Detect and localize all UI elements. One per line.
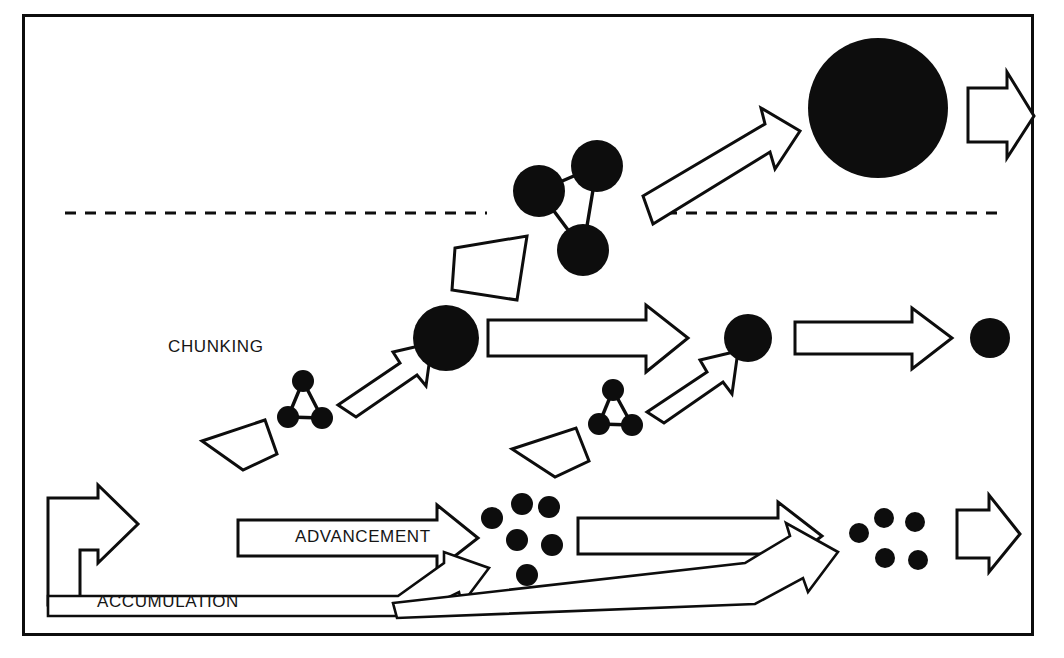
middle-circle-1 (413, 305, 479, 371)
cluster-node (602, 379, 624, 401)
cluster-node (557, 224, 609, 276)
advancement-arrow-mid-1 (488, 305, 688, 372)
dot (511, 493, 533, 515)
mega-circle (808, 38, 948, 178)
middle-circle-2 (724, 314, 772, 362)
chunking-arrow-top (643, 108, 800, 224)
cluster-node (571, 140, 623, 192)
cluster-node (513, 165, 565, 217)
cluster-node (621, 414, 643, 436)
dot (481, 507, 503, 529)
dot (874, 508, 894, 528)
dot (538, 496, 560, 518)
advancement-arrow-mid-2 (795, 308, 952, 369)
triangle-cluster-small-2 (588, 379, 643, 436)
chunking-arrow-mid-2-tail (512, 428, 589, 477)
advancement-label: ADVANCEMENT (295, 527, 431, 546)
triangle-cluster-large (513, 140, 623, 276)
cluster-node (277, 406, 299, 428)
cluster-node (588, 413, 610, 435)
output-arrow-bottom (957, 495, 1020, 572)
dot-cluster-right (849, 508, 928, 570)
dot (905, 512, 925, 532)
cluster-node (311, 407, 333, 429)
feedback-arrow-left (48, 485, 138, 605)
triangle-cluster-small-1 (277, 370, 333, 429)
dot (849, 523, 869, 543)
cluster-node (292, 370, 314, 392)
dot (506, 529, 528, 551)
dot (908, 550, 928, 570)
dot (541, 534, 563, 556)
diagram-canvas: CHUNKING (0, 0, 1064, 658)
dot (516, 564, 538, 586)
chunking-arrow-mid-1-tail (202, 420, 277, 470)
dot-cluster-left (481, 493, 563, 586)
middle-circle-3 (970, 318, 1010, 358)
chunking-label: CHUNKING (168, 337, 263, 356)
output-arrow-top (968, 72, 1034, 158)
accumulation-label: ACCUMULATION (97, 592, 239, 611)
dot (875, 548, 895, 568)
diagram-svg: CHUNKING (0, 0, 1064, 658)
chunking-arrow-top-tail (452, 236, 527, 300)
